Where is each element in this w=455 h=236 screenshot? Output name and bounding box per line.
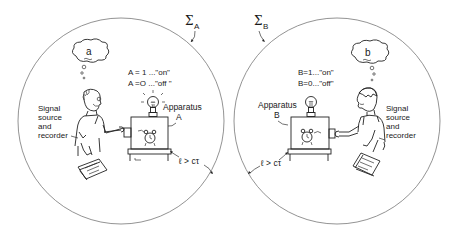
light-bulb-icon: [306, 97, 317, 117]
apparatus-b-letter: B: [274, 110, 280, 120]
alarm-clock-icon: [301, 129, 313, 145]
person-figure-a: [75, 89, 124, 156]
apparatus-a-letter: A: [176, 112, 182, 122]
apparatus-a-box: [124, 117, 171, 161]
svg-text:and: and: [38, 122, 51, 131]
svg-text:recorder: recorder: [38, 131, 68, 140]
signal-button-b: [329, 129, 335, 138]
apparatus-a-leader: [168, 123, 176, 126]
thought-cloud-b: b: [351, 40, 388, 81]
apparatus-b-leader: [278, 121, 288, 125]
region-b: Σ B b B=1..."on" B=0..."off" Apparatus B: [234, 14, 440, 224]
signal-button-a: [124, 128, 131, 137]
observer-a-label: Signal source and recorder: [38, 104, 78, 140]
thought-cloud-a: a: [72, 39, 108, 79]
apparatus-a-label: Apparatus: [163, 102, 202, 112]
distance-b-label: ℓ > cτ: [260, 158, 282, 168]
light-bulb-icon: [141, 90, 165, 117]
apparatus-b-label: Apparatus: [258, 100, 297, 110]
spacelike-separated-regions-diagram: Σ A a A = 1 ..."on" A =O ..."off " Appar…: [0, 0, 455, 236]
notebook-icon: [78, 159, 107, 180]
apparatus-b-box: [288, 117, 335, 161]
state-a-off: A =O ..."off ": [128, 79, 172, 88]
sigma-b-subscript: B: [263, 22, 268, 31]
region-a: Σ A a A = 1 ..."on" A =O ..."off " Appar…: [18, 14, 224, 224]
person-figure-b: [335, 88, 385, 152]
svg-text:recorder: recorder: [386, 131, 416, 140]
sigma-b-symbol: Σ: [254, 14, 262, 28]
notebook-icon: [353, 153, 380, 176]
svg-text:Signal: Signal: [386, 104, 408, 113]
distance-b-leader-2: [250, 166, 260, 173]
distance-a-label: ℓ > cτ: [178, 156, 200, 166]
alarm-clock-icon: [144, 130, 156, 146]
svg-text:and: and: [386, 122, 399, 131]
distance-a-leader-1: [171, 152, 179, 157]
state-a-on: A = 1 ..."on": [128, 68, 170, 77]
state-b-on: B=1..."on": [298, 68, 334, 77]
thought-a-text: a: [86, 46, 92, 57]
thought-b-text: b: [365, 47, 371, 58]
sigma-a-symbol: Σ: [185, 14, 193, 28]
svg-text:source: source: [386, 113, 411, 122]
distance-b-leader-1: [279, 153, 287, 160]
svg-text:Signal: Signal: [38, 104, 60, 113]
sigma-a-subscript: A: [194, 22, 200, 31]
state-b-off: B=0..."off": [298, 79, 334, 88]
svg-text:source: source: [38, 113, 63, 122]
